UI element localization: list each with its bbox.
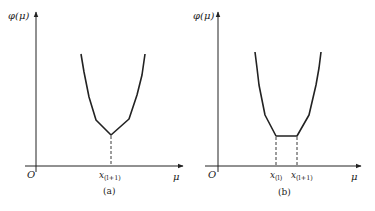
panel-a-origin-label: O (27, 169, 35, 180)
panel-b-origin-label: O (208, 169, 216, 180)
panel-a: φ(μ) O μ x(l+1) (a) (8, 10, 183, 196)
panel-a-x-axis-label: μ (173, 171, 180, 182)
panel-b-y-axis-label: φ(μ) (193, 10, 214, 21)
panel-a-caption: (a) (103, 186, 115, 196)
panel-a-curve (81, 54, 145, 135)
panel-a-tick-label: x(l+1) (99, 170, 121, 182)
panel-b-x-axis-label: μ (351, 171, 358, 182)
panel-b: φ(μ) O μ x(l) x(l+1) (b) (193, 10, 361, 197)
panel-b-tick-label-left: x(l) (270, 170, 283, 182)
panel-b-tick-label-right: x(l+1) (291, 170, 313, 182)
figure-canvas: φ(μ) O μ x(l+1) (a) φ(μ) O μ x(l) x(l+1)… (0, 0, 375, 211)
panel-b-caption: (b) (278, 187, 291, 197)
panel-a-y-axis-label: φ(μ) (8, 10, 29, 21)
panel-b-curve (255, 52, 321, 136)
